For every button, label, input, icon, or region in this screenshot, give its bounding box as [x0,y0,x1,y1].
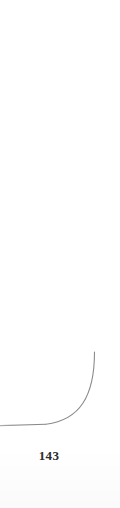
scanned-page-corner: 143 [0,0,120,508]
corner-curve-segment [46,352,95,424]
page-border-rule [0,0,120,508]
page-number: 143 [0,449,120,463]
horizontal-rule-segment [0,424,46,425]
